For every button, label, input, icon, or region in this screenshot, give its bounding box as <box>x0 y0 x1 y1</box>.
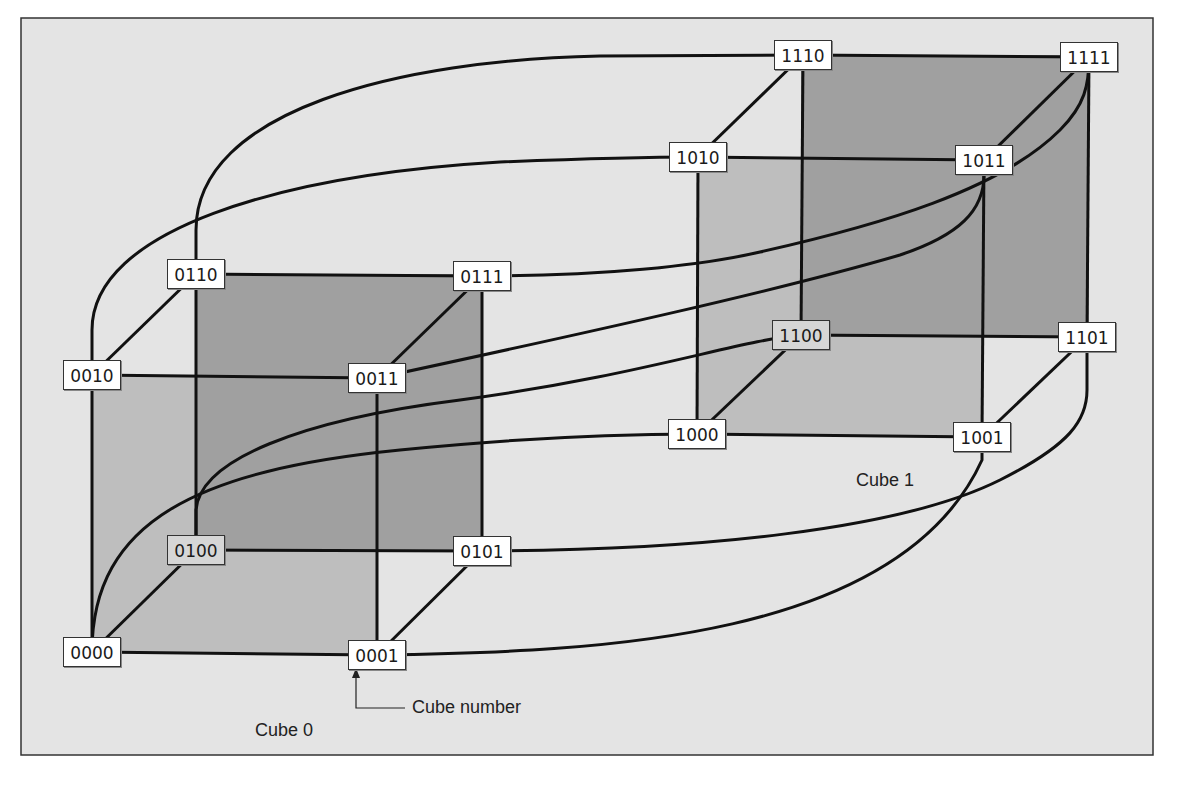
edge-0100-0101 <box>196 550 482 551</box>
edge-1000-1010 <box>697 157 698 434</box>
cube-number-label: Cube number <box>412 697 521 718</box>
edge-1001-1011 <box>982 160 984 437</box>
hypercube-diagram <box>0 0 1182 787</box>
node-1100: 1100 <box>772 320 830 350</box>
node-1001: 1001 <box>953 422 1011 452</box>
node-0111: 0111 <box>453 261 511 291</box>
edge-0110-0111 <box>196 274 482 276</box>
node-0010: 0010 <box>63 360 121 390</box>
node-0011: 0011 <box>348 363 406 393</box>
node-1010: 1010 <box>669 142 727 172</box>
node-0100: 0100 <box>167 535 225 565</box>
node-1110: 1110 <box>774 40 832 70</box>
node-1111: 1111 <box>1060 42 1118 72</box>
edge-1100-1110 <box>801 55 803 335</box>
node-0110: 0110 <box>167 259 225 289</box>
edge-1101-1111 <box>1087 57 1089 337</box>
cube0-label: Cube 0 <box>255 720 313 741</box>
node-1011: 1011 <box>955 145 1013 175</box>
node-1000: 1000 <box>668 419 726 449</box>
cube1-label: Cube 1 <box>856 470 914 491</box>
cube0-back-face <box>196 274 482 551</box>
node-0000: 0000 <box>63 637 121 667</box>
edge-1110-1111 <box>803 55 1089 57</box>
edge-1100-1101 <box>801 335 1087 337</box>
node-0101: 0101 <box>453 536 511 566</box>
node-0001: 0001 <box>348 640 406 670</box>
node-1101: 1101 <box>1058 322 1116 352</box>
